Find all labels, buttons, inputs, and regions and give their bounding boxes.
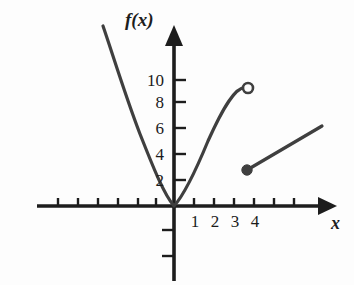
line-segment	[247, 126, 322, 170]
x-tick-label-3: 3	[225, 212, 245, 232]
y-tick-label-10: 10	[130, 71, 164, 91]
function-graph-figure: f(x) x 10 8 6 4 2 1 2 3 4	[0, 0, 354, 285]
filled-circle-marker	[242, 165, 252, 175]
x-tick-label-1: 1	[185, 212, 205, 232]
y-tick-label-8: 8	[130, 93, 164, 113]
x-tick-label-2: 2	[205, 212, 225, 232]
y-axis-label: f(x)	[125, 9, 153, 31]
graph-canvas	[0, 0, 354, 285]
y-axis-arrowhead	[165, 25, 183, 46]
open-circle-marker	[243, 83, 253, 93]
x-tick-label-4: 4	[245, 212, 265, 232]
y-tick-label-6: 6	[130, 119, 164, 139]
y-tick-label-2: 2	[130, 171, 164, 191]
y-tick-label-4: 4	[130, 145, 164, 165]
x-axis-label: x	[331, 213, 340, 234]
